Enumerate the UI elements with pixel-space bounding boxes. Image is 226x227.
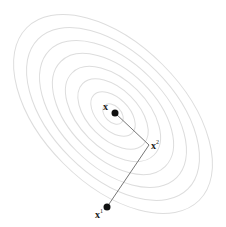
- point-x1: [104, 204, 111, 211]
- label-x-star-text: x: [103, 101, 108, 112]
- label-x2-sup: 2: [156, 139, 159, 145]
- contour-diagram: [0, 0, 226, 227]
- label-x2: x2: [151, 141, 159, 151]
- descent-path: [107, 113, 149, 207]
- label-x1-sup: 1: [100, 208, 103, 214]
- label-x-star: x: [103, 102, 108, 112]
- label-x1: x1: [95, 210, 103, 220]
- point-x-star: [112, 110, 119, 117]
